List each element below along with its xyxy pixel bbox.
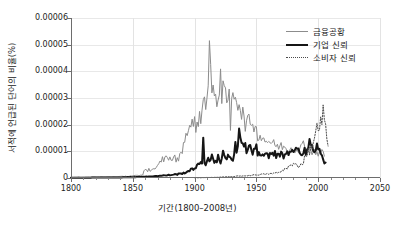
y-axis-tick-label: 0.00001 xyxy=(35,147,68,155)
legend-line-swatch-consumer-confidence xyxy=(286,52,308,62)
legend-item-financial-panic: 금융공황 xyxy=(286,24,390,37)
x-axis-tick-mark-minor xyxy=(368,178,369,180)
x-axis-tick-mark-minor xyxy=(207,178,208,180)
x-axis-tick-label: 1850 xyxy=(123,184,143,193)
y-axis-tick-label: 0.00005 xyxy=(35,41,68,49)
x-axis-tick-mark-minor xyxy=(244,178,245,180)
legend-label-consumer-confidence: 소비자 신뢰 xyxy=(313,51,356,63)
x-axis-tick-mark-major xyxy=(318,178,319,182)
x-axis-tick-mark-minor xyxy=(293,178,294,180)
y-axis-tick-label: 0.00003 xyxy=(35,94,68,102)
legend-item-business-confidence: 기업 신뢰 xyxy=(286,37,390,50)
x-axis-tick-mark-minor xyxy=(182,178,183,180)
legend-line-swatch-financial-panic xyxy=(286,26,308,36)
legend-label-financial-panic: 금융공황 xyxy=(313,25,345,37)
y-axis-tick-mark xyxy=(67,18,71,19)
x-axis-tick-mark-major xyxy=(71,178,72,182)
x-axis-title: 기간(1800–2008년) xyxy=(0,201,395,213)
x-axis-tick-mark-major xyxy=(380,178,381,182)
x-axis-tick-label: 1800 xyxy=(61,184,81,193)
x-axis-tick-mark-major xyxy=(256,178,257,182)
ngram-chart-figure: 서적에 언급된 단어의 비율(%) 00.000010.000020.00003… xyxy=(0,0,395,226)
y-axis-tick-mark xyxy=(67,98,71,99)
series-line-3 xyxy=(195,105,328,178)
x-axis-tick-mark-minor xyxy=(269,178,270,180)
x-axis-tick-label: 2000 xyxy=(308,184,328,193)
y-axis-tick-mark xyxy=(67,125,71,126)
y-axis-tick-label: 0.00002 xyxy=(35,121,68,129)
x-axis-tick-mark-major xyxy=(133,178,134,182)
x-axis-tick-mark-major xyxy=(195,178,196,182)
y-axis-tick-label: 0.00006 xyxy=(35,14,68,22)
x-axis-tick-mark-minor xyxy=(108,178,109,180)
chart-legend: 금융공황 기업 신뢰 소비자 신뢰 xyxy=(286,24,390,63)
y-axis-tick-mark xyxy=(67,71,71,72)
x-axis-tick-mark-minor xyxy=(145,178,146,180)
x-axis-tick-mark-minor xyxy=(120,178,121,180)
y-axis-tick-mark xyxy=(67,151,71,152)
legend-label-business-confidence: 기업 신뢰 xyxy=(313,38,348,50)
y-axis-tick-mark xyxy=(67,45,71,46)
series-line-2 xyxy=(71,129,326,178)
y-axis-line xyxy=(71,18,72,178)
y-axis-tick-label: 0.00004 xyxy=(35,67,68,75)
x-axis-tick-mark-minor xyxy=(96,178,97,180)
x-axis-tick-mark-minor xyxy=(343,178,344,180)
x-axis-tick-label: 1900 xyxy=(184,184,204,193)
x-axis-tick-mark-minor xyxy=(232,178,233,180)
x-axis-tick-mark-minor xyxy=(281,178,282,180)
x-axis-tick-label: 1950 xyxy=(246,184,266,193)
legend-item-consumer-confidence: 소비자 신뢰 xyxy=(286,50,390,63)
x-axis-tick-labels: 180018501900195020002050 xyxy=(71,178,380,200)
x-axis-title-text: 기간(1800–2008년) xyxy=(158,201,236,213)
x-axis-tick-mark-minor xyxy=(170,178,171,180)
x-axis-tick-mark-minor xyxy=(331,178,332,180)
x-axis-tick-mark-minor xyxy=(306,178,307,180)
x-axis-tick-mark-minor xyxy=(83,178,84,180)
x-axis-tick-mark-minor xyxy=(219,178,220,180)
x-axis-tick-mark-minor xyxy=(355,178,356,180)
x-axis-tick-label: 2050 xyxy=(370,184,390,193)
legend-line-swatch-business-confidence xyxy=(286,39,308,49)
x-axis-tick-mark-minor xyxy=(158,178,159,180)
